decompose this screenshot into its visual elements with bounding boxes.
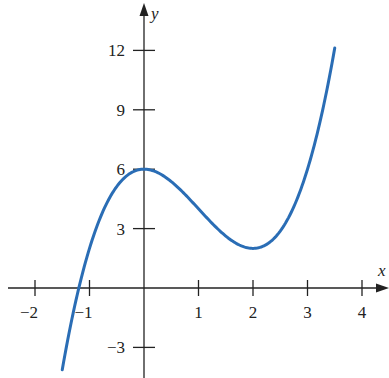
y-tick-label: 12	[108, 41, 125, 60]
tick-labels: −2−1123412963−3	[20, 41, 367, 357]
x-tick-label: 1	[194, 303, 203, 322]
x-tick-label: 3	[303, 303, 312, 322]
y-tick-label: 6	[117, 160, 126, 179]
x-axis-arrow-icon	[376, 284, 389, 293]
x-tick-label: −1	[74, 303, 92, 322]
y-tick-label: 3	[117, 220, 126, 239]
y-tick-label: 9	[117, 101, 126, 120]
x-tick-label: 2	[249, 303, 258, 322]
y-axis-label: y	[149, 4, 159, 23]
x-tick-label: 4	[358, 303, 367, 322]
x-tick-label: −2	[20, 303, 38, 322]
y-axis-arrow-icon	[140, 3, 149, 16]
y-tick-label: −3	[107, 338, 125, 357]
function-plot: −2−1123412963−3 x y	[0, 0, 389, 378]
x-axis-label: x	[377, 261, 386, 280]
